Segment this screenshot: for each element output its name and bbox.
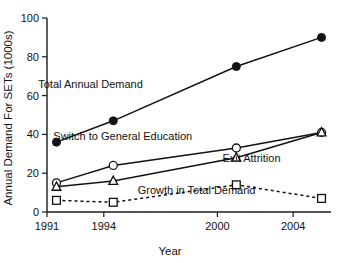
y-tick-label: 60 (27, 90, 39, 102)
series-label-3: Growth in Total Demand (138, 184, 256, 196)
y-tick-label: 80 (27, 51, 39, 63)
x-tick-label: 1994 (92, 220, 116, 232)
series-label-1: Switch to General Education (53, 130, 192, 142)
line-chart: 020406080100 1991199420002004 Total Annu… (0, 0, 339, 263)
chart-container: 020406080100 1991199420002004 Total Annu… (0, 0, 339, 263)
x-axis-title: Year (158, 245, 181, 257)
y-axis-ticks: 020406080100 (21, 12, 47, 218)
y-tick-label: 100 (21, 12, 39, 24)
y-tick-label: 0 (33, 206, 39, 218)
series-label-0: Total Annual Demand (38, 78, 143, 90)
data-point-marker (318, 33, 326, 41)
chart-series-group (52, 33, 326, 206)
data-point-marker (109, 161, 117, 169)
x-tick-label: 1991 (35, 220, 59, 232)
y-tick-label: 40 (27, 128, 39, 140)
data-point-marker (53, 196, 61, 204)
y-axis-title: Annual Demand For SETs (1000s) (2, 30, 14, 205)
x-axis-ticks: 1991199420002004 (35, 212, 306, 232)
data-point-marker (109, 198, 117, 206)
y-tick-label: 20 (27, 167, 39, 179)
series-label-2: Exit Attrition (222, 152, 280, 164)
data-point-marker (232, 63, 240, 71)
x-tick-label: 2000 (205, 220, 229, 232)
x-tick-label: 2004 (281, 220, 305, 232)
data-point-marker (318, 195, 326, 203)
data-point-marker (109, 117, 117, 125)
